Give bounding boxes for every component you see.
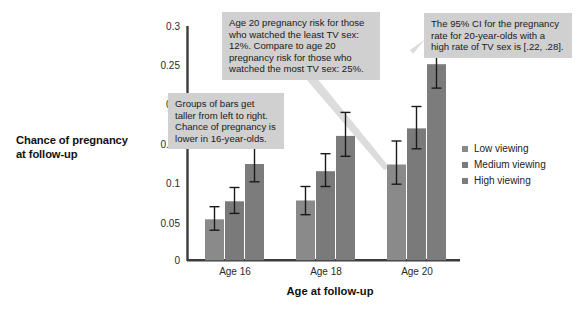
y-tick-0.1: 0.1 — [148, 179, 180, 189]
y-axis-title-line1: Chance of pregnancy — [16, 133, 151, 147]
y-axis-title: Chance of pregnancy at follow-up — [16, 133, 151, 161]
callout-confidence-interval: The 95% CI for the pregnancy rate for 20… — [424, 13, 572, 58]
callout-age20-comparison: Age 20 pregnancy risk for those who watc… — [222, 12, 380, 80]
legend-swatch-icon-high — [462, 178, 468, 184]
x-axis-title: Age at follow-up — [185, 285, 475, 297]
y-axis-title-line2: at follow-up — [16, 147, 151, 161]
y-tick-0.3: 0.3 — [148, 22, 180, 32]
legend-swatch-icon-medium — [462, 162, 468, 168]
legend-label-high: High viewing — [474, 175, 531, 186]
legend-item-high-viewing[interactable]: High viewing — [462, 173, 546, 188]
callout-group-trend: Groups of bars get taller from left to r… — [168, 93, 284, 149]
x-tick-age-18: Age 18 — [281, 266, 371, 277]
legend-item-low-viewing[interactable]: Low viewing — [462, 141, 546, 156]
bar-age20-high — [427, 64, 446, 260]
legend-item-medium-viewing[interactable]: Medium viewing — [462, 157, 546, 172]
y-tick-0: 0 — [148, 256, 180, 266]
x-tick-age-20: Age 20 — [372, 266, 462, 277]
legend: Low viewing Medium viewing High viewing — [462, 141, 546, 189]
legend-label-medium: Medium viewing — [474, 159, 546, 170]
y-tick-0.05: 0.05 — [148, 219, 180, 229]
legend-label-low: Low viewing — [474, 143, 528, 154]
y-tick-0.25: 0.25 — [148, 61, 180, 71]
legend-swatch-icon-low — [462, 146, 468, 152]
bar-chart: Chance of pregnancy at follow-up 0.3 0.2… — [0, 0, 577, 309]
x-tick-age-16: Age 16 — [190, 266, 280, 277]
